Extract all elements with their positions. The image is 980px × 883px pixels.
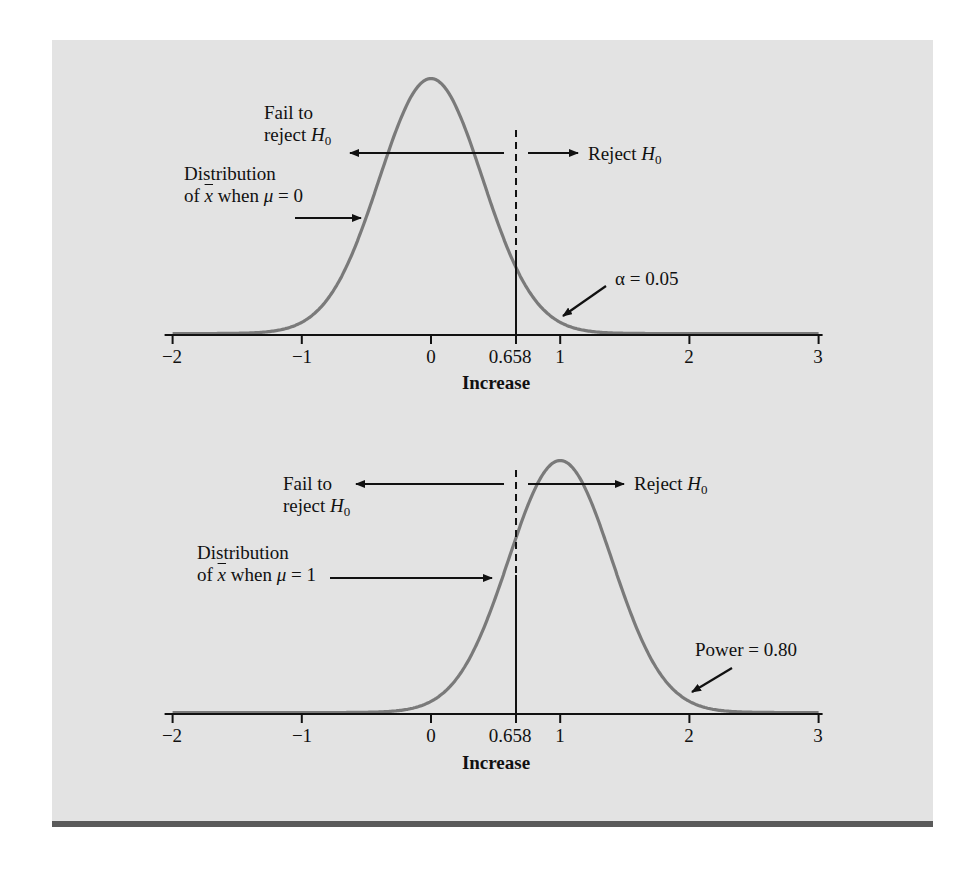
reject-text: Reject bbox=[588, 143, 641, 164]
top-tick-neg1: −1 bbox=[292, 346, 312, 368]
h-subscript: 0 bbox=[325, 133, 332, 148]
fail-line1: Fail to bbox=[283, 473, 332, 494]
top-tick-neg2: −2 bbox=[162, 346, 182, 368]
dist-when: when bbox=[226, 564, 277, 585]
bottom-x-axis-label: Increase bbox=[462, 752, 530, 774]
reject-text: Reject bbox=[634, 473, 687, 494]
mu-value: = 0 bbox=[273, 185, 303, 206]
bottom-reject-label: Reject H0 bbox=[634, 473, 708, 495]
mu-value: = 1 bbox=[286, 564, 316, 585]
power-label: Power = 0.80 bbox=[695, 639, 797, 661]
h-subscript: 0 bbox=[701, 482, 708, 497]
dist-of: of bbox=[197, 564, 218, 585]
bottom-fail-to-reject-label: Fail to reject H0 bbox=[283, 473, 350, 517]
alpha-label: α = 0.05 bbox=[615, 268, 678, 290]
fail-line2: reject bbox=[264, 124, 311, 145]
fail-line1: Fail to bbox=[264, 102, 313, 123]
h-symbol: H bbox=[311, 124, 325, 145]
bottom-tick-neg1: −1 bbox=[292, 725, 312, 747]
fail-line2: reject bbox=[283, 495, 330, 516]
top-tick-0: 0 bbox=[426, 346, 436, 368]
dist-of: of bbox=[184, 185, 205, 206]
top-distribution-label: Distribution of x when μ = 0 bbox=[184, 163, 303, 207]
h-symbol: H bbox=[687, 473, 701, 494]
top-fail-to-reject-label: Fail to reject H0 bbox=[264, 102, 331, 146]
mu-symbol: μ bbox=[277, 564, 287, 585]
bottom-tick-1: 1 bbox=[555, 725, 565, 747]
bottom-tick-neg2: −2 bbox=[162, 725, 182, 747]
mu-symbol: μ bbox=[264, 185, 274, 206]
xbar-symbol: x bbox=[218, 564, 226, 585]
dist-line1: Distribution bbox=[197, 542, 289, 563]
h-subscript: 0 bbox=[344, 504, 351, 519]
h-subscript: 0 bbox=[655, 152, 662, 167]
top-reject-label: Reject H0 bbox=[588, 143, 662, 165]
bottom-tick-2: 2 bbox=[684, 725, 694, 747]
top-tick-1: 1 bbox=[555, 346, 565, 368]
bottom-tick-3: 3 bbox=[813, 725, 823, 747]
h-symbol: H bbox=[330, 495, 344, 516]
top-tick-0658: 0.658 bbox=[489, 346, 532, 368]
top-tick-3: 3 bbox=[813, 346, 823, 368]
top-x-axis-label: Increase bbox=[462, 372, 530, 394]
dist-when: when bbox=[213, 185, 264, 206]
xbar-symbol: x bbox=[205, 185, 213, 206]
top-tick-2: 2 bbox=[684, 346, 694, 368]
bottom-tick-0: 0 bbox=[426, 725, 436, 747]
dist-line1: Distribution bbox=[184, 163, 276, 184]
bottom-tick-0658: 0.658 bbox=[489, 725, 532, 747]
bottom-plot bbox=[165, 461, 823, 724]
h-symbol: H bbox=[641, 143, 655, 164]
power-figure-graphics bbox=[0, 0, 980, 883]
bottom-distribution-label: Distribution of x when μ = 1 bbox=[197, 542, 316, 586]
